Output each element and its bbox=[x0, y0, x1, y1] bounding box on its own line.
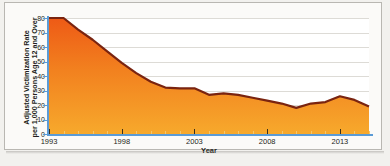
y-tick-mark bbox=[43, 134, 47, 135]
x-tick-mark bbox=[122, 129, 123, 134]
y-tick-mark bbox=[43, 62, 47, 63]
x-tick-minor bbox=[325, 131, 326, 134]
x-tick-minor bbox=[296, 131, 297, 134]
y-axis-title-wrap: Adjusted Victimization Rate per 1,000 Pe… bbox=[13, 11, 31, 139]
x-tick-minor bbox=[253, 131, 254, 134]
x-tick-minor bbox=[136, 131, 137, 134]
y-axis-title-line2: per 1,000 Persons Age 12 and Over bbox=[30, 17, 39, 137]
x-tick-mark bbox=[267, 129, 268, 134]
x-tick-minor bbox=[354, 131, 355, 134]
area-series bbox=[49, 18, 369, 135]
y-axis-line bbox=[47, 16, 49, 136]
x-tick-minor bbox=[93, 131, 94, 134]
x-tick-label: 1993 bbox=[41, 137, 58, 146]
y-axis-title: Adjusted Victimization Rate per 1,000 Pe… bbox=[23, 15, 40, 139]
x-tick-minor bbox=[238, 131, 239, 134]
x-tick-label: 2013 bbox=[332, 137, 349, 146]
x-tick-minor bbox=[151, 131, 152, 134]
y-tick-mark bbox=[43, 76, 47, 77]
x-axis-line bbox=[47, 134, 373, 136]
x-tick-minor bbox=[107, 131, 108, 134]
x-tick-minor bbox=[64, 131, 65, 134]
y-tick-mark bbox=[43, 47, 47, 48]
x-tick-minor bbox=[165, 131, 166, 134]
card-shadow bbox=[6, 151, 384, 154]
x-tick-label: 2003 bbox=[186, 137, 203, 146]
x-tick-mark bbox=[194, 129, 195, 134]
x-tick-mark bbox=[340, 129, 341, 134]
x-tick-minor bbox=[78, 131, 79, 134]
x-tick-minor bbox=[180, 131, 181, 134]
x-tick-minor bbox=[282, 131, 283, 134]
chart-figure: 01020304050607080 19931998200320082013 Y… bbox=[0, 0, 390, 166]
x-tick-minor bbox=[224, 131, 225, 134]
y-tick-mark bbox=[43, 105, 47, 106]
y-tick-mark bbox=[43, 91, 47, 92]
y-tick-mark bbox=[43, 18, 47, 19]
x-tick-minor bbox=[369, 131, 370, 134]
x-tick-minor bbox=[311, 131, 312, 134]
x-tick-minor bbox=[209, 131, 210, 134]
x-tick-label: 2008 bbox=[259, 137, 276, 146]
chart-card: 01020304050607080 19931998200320082013 Y… bbox=[4, 2, 382, 150]
y-tick-mark bbox=[43, 33, 47, 34]
y-tick-mark bbox=[43, 120, 47, 121]
x-tick-label: 1998 bbox=[113, 137, 130, 146]
x-tick-mark bbox=[49, 129, 50, 134]
